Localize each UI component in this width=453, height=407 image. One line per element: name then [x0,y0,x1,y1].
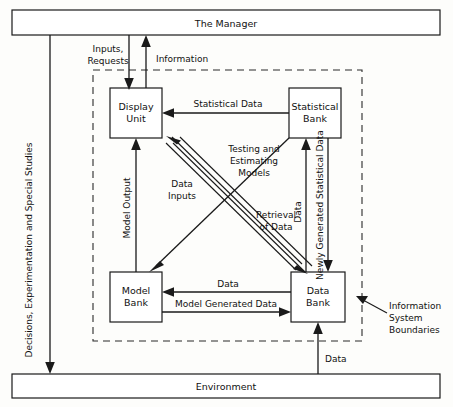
edge-testing-estimating-models-label-line1: Testing and [227,144,279,154]
edge-retrieval-of-data-label-line1: Retrieval [256,210,296,220]
edge-data-vertical-arrowhead [301,138,311,150]
edge-data-inputs-label-line1: Data [171,179,193,189]
edge-testing-estimating-models-label-line3: Models [238,168,270,178]
node-statistical-bank-label-line2: Bank [303,113,327,124]
annotation-boundary-label-line3: Boundaries [389,325,440,335]
edge-statistical-data-top-label: Statistical Data [194,99,263,109]
edge-inputs-requests-label-line2: Requests [87,56,129,66]
node-display-unit-label-line2: Unit [126,113,146,124]
edge-inputs-requests-label-line1: Inputs, [93,44,124,54]
edge-data-mid-arrowhead [162,287,174,297]
edge-decisions-experimentation-arrowhead [45,362,55,374]
edge-testing-estimating-models-arrowhead [149,261,164,272]
annotation-boundary-leader-line [363,300,387,313]
edge-information-label: Information [156,54,208,64]
edge-data-inputs-label-line2: Inputs [168,191,196,201]
annotation-boundary-label-line2: System [389,313,423,323]
edge-statistical-data-top-arrowhead [162,108,174,118]
edge-data-vertical-label: Data [293,201,303,223]
environment-band-label: Environment [196,381,257,392]
node-data-bank-label-line2: Bank [306,297,330,308]
edge-model-output-arrowhead [131,138,141,150]
node-model-bank-label-line2: Bank [124,297,148,308]
node-model-bank-label-line1: Model [122,285,151,296]
edge-data-environment-label: Data [325,354,347,364]
diagram-svg: The Manager Environment Display Unit Sta… [0,0,453,407]
edge-data-environment-arrowhead [313,322,323,334]
edge-retrieval-of-data-label-line2: of Data [259,222,292,232]
edge-model-output-label: Model Output [122,177,132,239]
manager-band-label: The Manager [194,18,257,29]
node-statistical-bank-label-line1: Statistical [292,101,339,112]
node-display-unit-label-line1: Display [118,101,153,112]
edge-decisions-experimentation-label: Decisions, Experimentation and Special S… [24,142,34,357]
annotation-boundary-arrowhead [356,296,368,304]
edge-information-arrowhead [141,35,151,47]
diagram-canvas: The Manager Environment Display Unit Sta… [0,0,453,407]
edge-testing-estimating-models-label-line2: Estimating [230,156,278,166]
node-data-bank-label-line1: Data [307,285,330,296]
edge-newly-generated-statistical-data-label: Newly Generated Statistical Data [315,130,325,280]
annotation-boundary-label-line1: Information [389,301,441,311]
edge-model-generated-data-label: Model Generated Data [175,299,277,309]
edge-data-mid-label: Data [217,279,239,289]
edge-model-generated-data-arrowhead [279,307,291,317]
